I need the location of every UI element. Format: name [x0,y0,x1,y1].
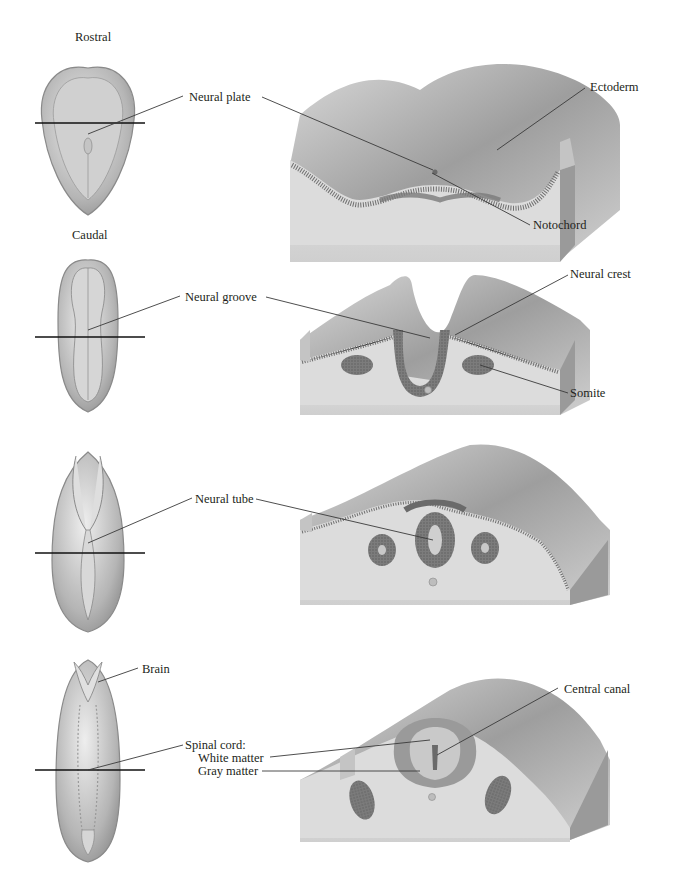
label-neural-groove: Neural groove [185,290,257,304]
cross-section-block-1 [290,64,620,262]
diagram-artwork [0,0,675,892]
label-central-canal: Central canal [564,682,630,696]
label-spinal-cord: Spinal cord: [185,738,246,752]
cross-section-block-2 [300,275,590,415]
cross-section-block-4 [300,678,610,842]
cross-section-block-3 [300,444,610,605]
embryo-dorsal-view-1 [41,67,134,215]
label-neural-crest: Neural crest [570,267,631,281]
label-somite: Somite [570,386,605,400]
label-neural-tube: Neural tube [195,492,254,506]
embryo-dorsal-view-2 [58,260,118,412]
caudal-label: Caudal [72,228,107,242]
embryo-dorsal-view-3 [52,452,124,632]
embryo-dorsal-view-4 [56,660,120,862]
label-ectoderm: Ectoderm [590,80,639,94]
label-notochord: Notochord [533,218,586,232]
rostral-label: Rostral [75,30,111,44]
label-brain: Brain [142,662,170,676]
label-gray-matter: Gray matter [198,764,258,778]
label-white-matter: White matter [198,751,264,765]
label-neural-plate: Neural plate [189,90,250,104]
